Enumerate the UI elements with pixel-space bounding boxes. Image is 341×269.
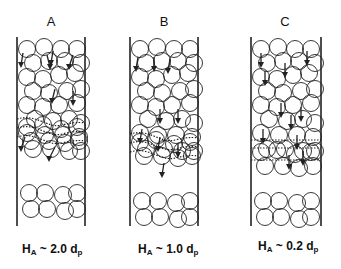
caption-a: HA ~ 2.0 dp [22,242,82,257]
particle [35,117,52,134]
particle [134,193,151,210]
particle [136,148,153,165]
particle [69,95,86,112]
particle [271,193,288,210]
arrowhead-icon [298,116,304,122]
arrowhead-icon [165,68,171,74]
particle [275,53,292,70]
particle [39,201,56,218]
arrowhead-icon [282,72,288,78]
particle [257,158,274,175]
particle [57,203,74,220]
particle [148,99,165,116]
particle [23,201,40,218]
particle [273,209,290,226]
particle [73,55,90,72]
particle [303,95,320,112]
particle [150,193,167,210]
particle-bed-diagram [0,0,341,269]
particle [152,209,169,226]
particle [51,67,68,84]
arrowhead-icon [46,156,52,162]
particle [37,185,54,202]
caption-b: HA ~ 1.0 dp [138,242,198,257]
particle [182,95,199,112]
particle [259,141,276,158]
particle [69,201,86,218]
particle [21,185,38,202]
particle [170,211,187,228]
particle [291,211,308,228]
arrowhead-icon [175,118,181,124]
arrowhead-icon [18,146,24,152]
arrowhead-icon [70,100,76,106]
particle [180,65,197,82]
particle [285,67,302,84]
particle [186,55,203,72]
particle [303,209,320,226]
caption-c: HA ~ 0.2 dp [258,239,318,254]
particle [301,65,318,82]
particle [257,209,274,226]
particle [35,99,52,116]
arrowhead-icon [159,172,165,178]
particle [182,209,199,226]
particle [136,209,153,226]
particle [255,193,272,210]
particle [285,97,302,114]
arrowhead-icon [18,62,24,68]
particle [295,111,312,128]
